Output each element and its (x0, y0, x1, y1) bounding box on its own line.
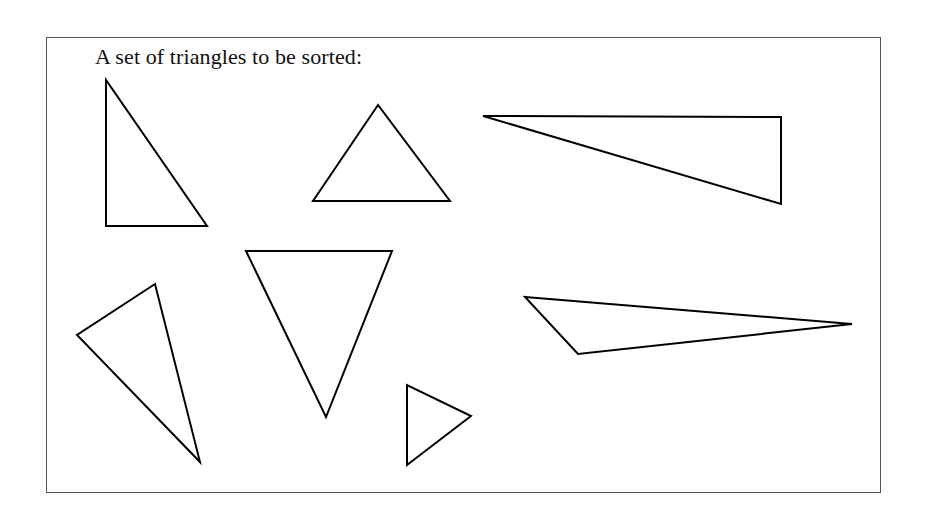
triangle-small (407, 385, 471, 465)
triangle-acute (313, 105, 450, 201)
triangle-scalene-tilted (77, 284, 200, 462)
triangle-obtuse-long (525, 297, 852, 354)
triangle-right-long (483, 116, 781, 204)
triangle-right-tall (106, 80, 207, 226)
triangle-inverted-isosceles (246, 251, 392, 417)
triangles-canvas (0, 0, 930, 527)
